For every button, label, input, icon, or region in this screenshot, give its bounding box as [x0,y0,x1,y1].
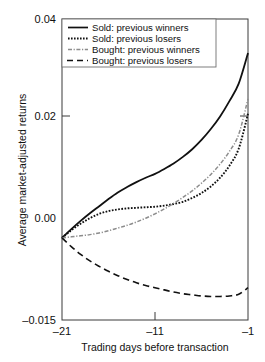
xtick-label-right: –1 [242,325,254,337]
x-axis-title: Trading days before transaction [81,341,228,353]
series-line-bought-previous-winners [62,99,248,238]
chart-canvas: 0.04 0.02 0.00 –0.015 –21 –11 –1 Trading… [0,0,265,362]
legend-label-3: Bought: previous losers [92,55,192,66]
ytick-label-bottom: –0.015 [22,314,56,326]
chart-figure: 0.04 0.02 0.00 –0.015 –21 –11 –1 Trading… [0,0,265,362]
series-line-sold-previous-losers [62,114,248,238]
series-line-sold-previous-winners [62,53,248,238]
series-line-bought-previous-losers [62,238,248,297]
legend-label-0: Sold: previous winners [92,22,189,33]
xtick-label-left: –21 [53,325,71,337]
legend: Sold: previous winners Sold: previous lo… [62,19,216,67]
data-curves [62,53,248,297]
ytick-label-top: 0.04 [35,13,56,25]
y-axis-title: Average market-adjusted returns [16,94,28,247]
xtick-label-mid: –11 [146,325,164,337]
ytick-label-zero: 0.00 [35,212,56,224]
ytick-label-mid: 0.02 [35,110,56,122]
legend-label-2: Bought: previous winners [92,44,200,55]
legend-label-1: Sold: previous losers [92,33,181,44]
